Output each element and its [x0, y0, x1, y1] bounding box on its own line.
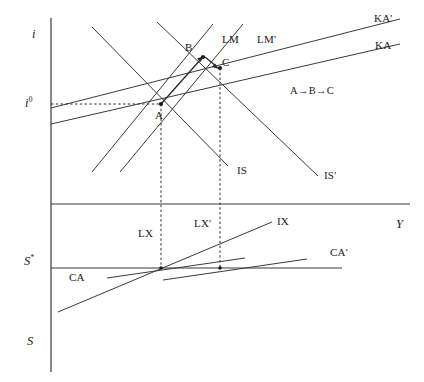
axis-tick-label-s-star-superscript: * [30, 253, 34, 262]
diagram-canvas [0, 0, 424, 382]
curve-ca-prime [163, 259, 307, 280]
point-marker-a [159, 102, 163, 106]
axis-tick-label-s-star: S* [24, 255, 34, 268]
axis-tick-label-i0: i0 [25, 97, 33, 110]
curve-label-ix: IX [277, 216, 289, 227]
curve-lm-prime [120, 24, 243, 172]
economics-diagram: i i0 Y S* S KA' KA LM LM' IS IS' A B C A… [0, 0, 424, 382]
curve-label-ka-prime: KA' [374, 13, 392, 24]
point-label-c: C [222, 57, 230, 68]
curve-label-lm: LM [222, 34, 239, 45]
axis-label-interest-rate: i [32, 28, 36, 41]
axis-label-output: Y [396, 218, 403, 231]
curve-label-is: IS [237, 165, 247, 176]
curve-label-is-prime: IS' [324, 170, 336, 181]
point-label-a: A [155, 110, 163, 121]
curve-is [92, 27, 228, 166]
curve-ix [58, 222, 272, 312]
curve-label-ka: KA [375, 40, 391, 51]
curve-label-lm-prime: LM' [257, 34, 276, 45]
point-label-b: B [185, 42, 193, 53]
axis-tick-label-i0-superscript: 0 [29, 95, 33, 104]
curve-label-lx-prime: LX' [194, 218, 211, 229]
annotation-adjustment-sequence: A→B→C [290, 86, 334, 97]
point-marker-b [201, 55, 205, 59]
point-marker-balance-lx [159, 266, 163, 270]
point-marker-balance-lx-prime [218, 266, 222, 270]
axis-label-balance: S [27, 335, 33, 348]
curve-label-lx: LX [138, 228, 153, 239]
curve-label-ca: CA [69, 272, 85, 283]
curve-label-ca-prime: CA' [330, 247, 348, 258]
